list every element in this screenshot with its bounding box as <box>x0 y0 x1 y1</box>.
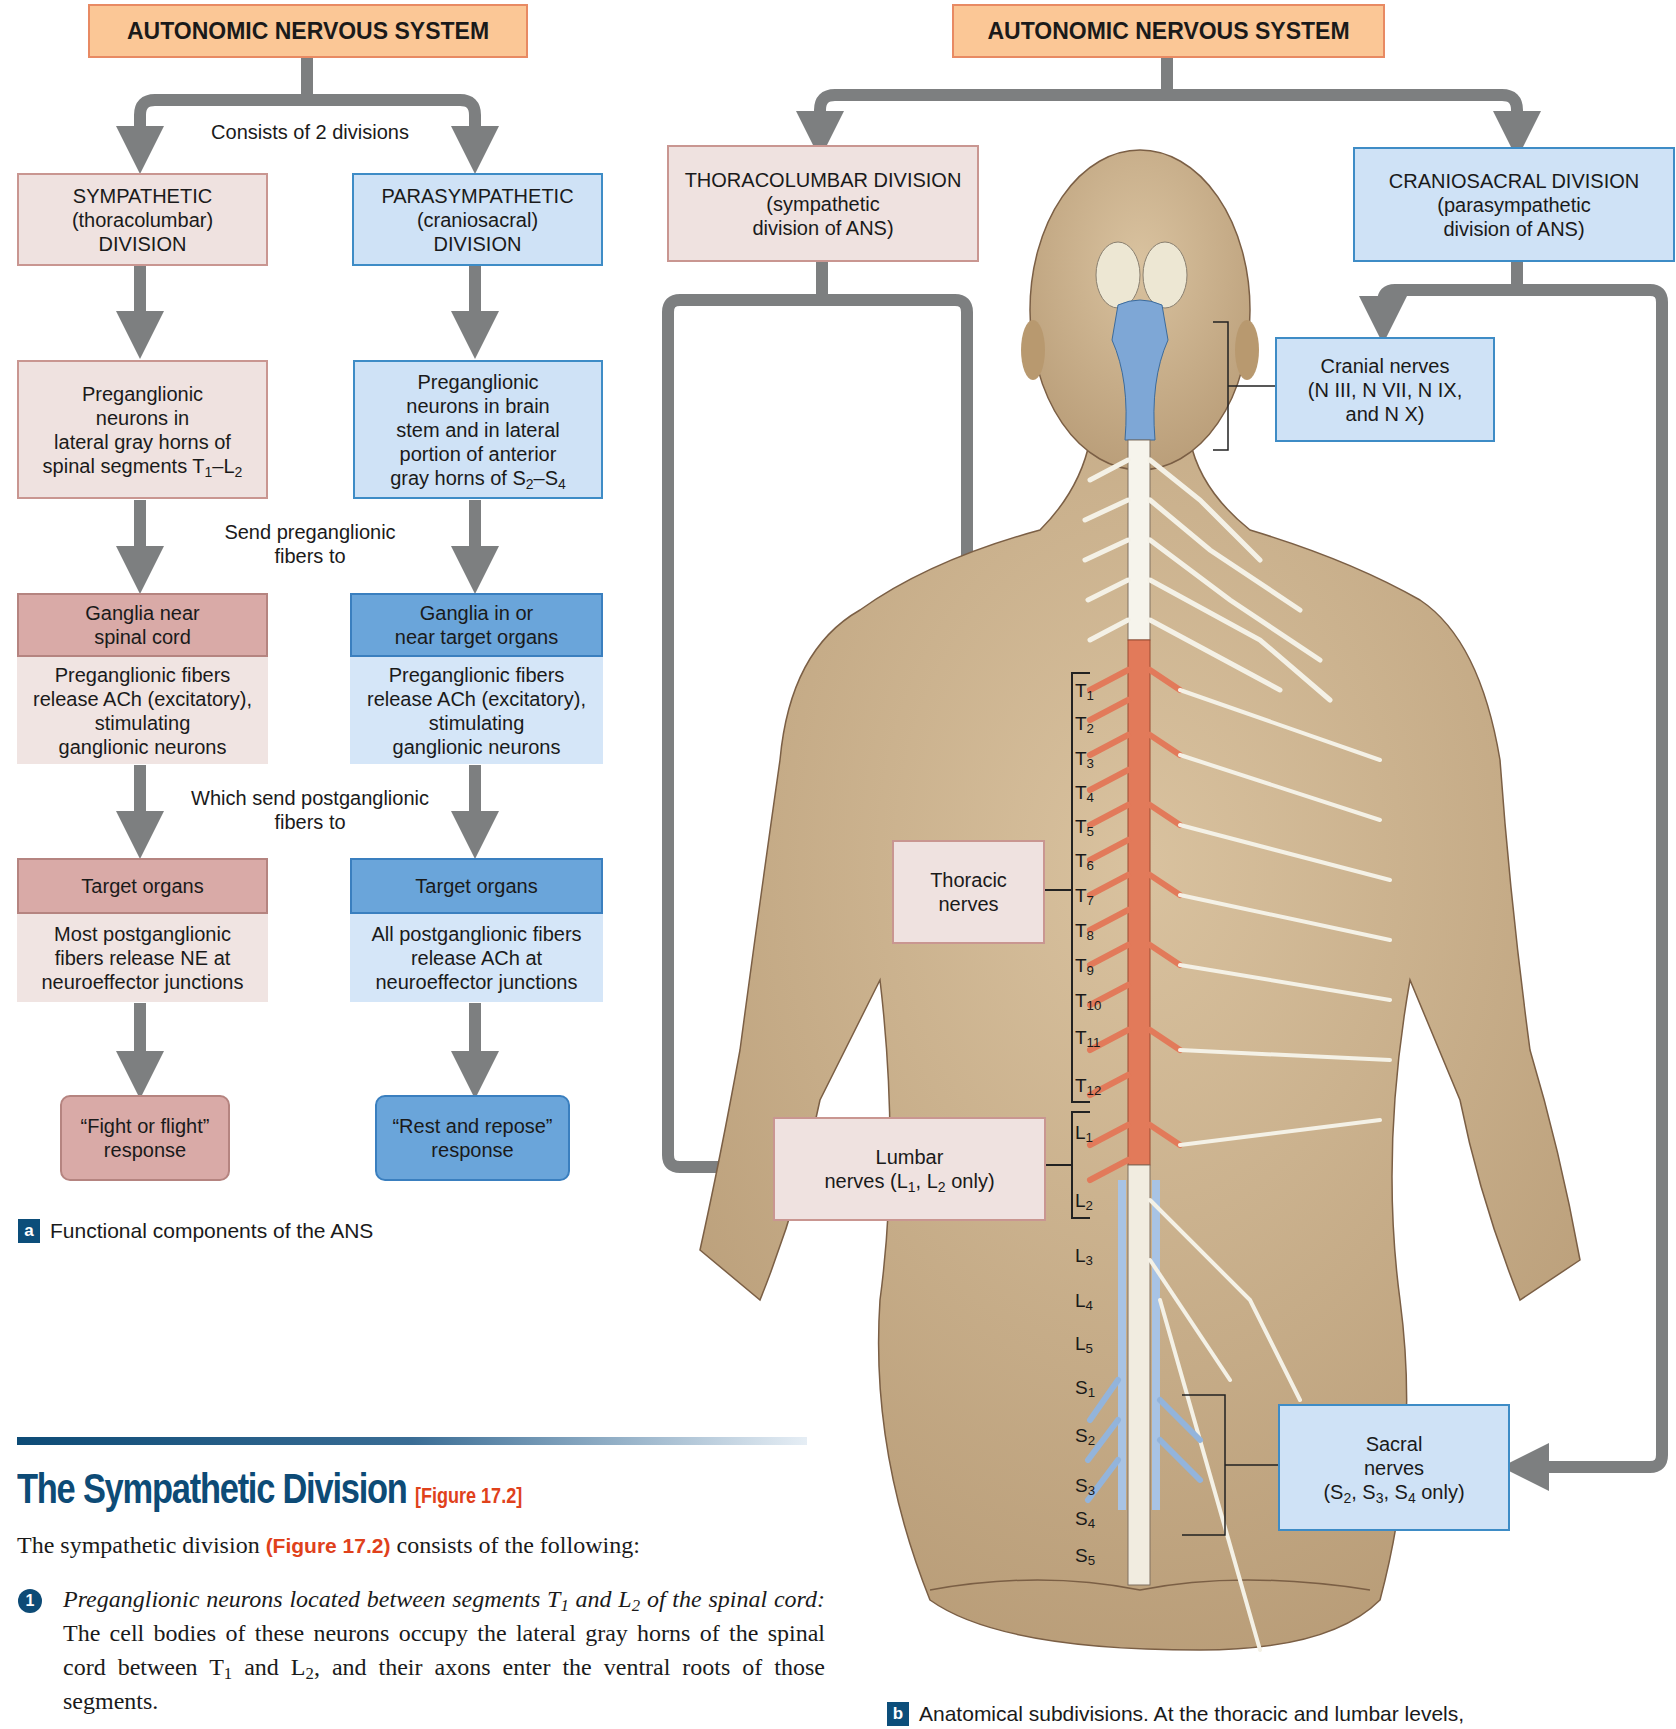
segment-label-l4: L4 <box>1075 1290 1093 1312</box>
section-intro: The sympathetic division (Figure 17.2) c… <box>17 1528 817 1563</box>
par-pre-line2: neurons in brain <box>406 394 549 418</box>
segment-label-t5: T5 <box>1075 816 1094 838</box>
section-title: The Sympathetic Division [Figure 17.2] <box>17 1465 522 1513</box>
segment-label-t8: T8 <box>1075 920 1094 942</box>
sym-division-line3: DIVISION <box>99 232 187 256</box>
caption-a: a Functional components of the ANS <box>18 1219 373 1243</box>
section-divider <box>17 1437 807 1445</box>
parasympathetic-division-box: PARASYMPATHETIC (craniosacral) DIVISION <box>352 173 603 266</box>
segment-label-l2: L2 <box>1075 1190 1093 1212</box>
lumbar-nerves-box: Lumbar nerves (L1, L2 only) <box>773 1117 1046 1221</box>
sym-pre-line4: spinal segments T1–L2 <box>43 454 243 478</box>
list-number-badge: 1 <box>18 1589 42 1613</box>
section-title-ref: [Figure 17.2] <box>415 1483 522 1508</box>
connector-consists: Consists of 2 divisions <box>180 120 440 144</box>
segment-label-s2: S2 <box>1075 1425 1095 1447</box>
sym-ganglia-title: Ganglia near spinal cord <box>17 593 268 657</box>
par-ganglia-title: Ganglia in or near target organs <box>350 593 603 657</box>
sacral-nerves-box: Sacral nerves (S2, S3, S4 only) <box>1278 1404 1510 1531</box>
sympathetic-cord <box>1128 640 1150 1165</box>
segment-label-t3: T3 <box>1075 748 1094 770</box>
par-division-line1: PARASYMPATHETIC <box>381 184 573 208</box>
sym-pre-line2: neurons in <box>96 406 189 430</box>
par-target-desc: All postganglionic fibers release ACh at… <box>350 914 603 1002</box>
cranial-nerves-box: Cranial nerves (N III, N VII, N IX, and … <box>1275 337 1495 442</box>
segment-label-t9: T9 <box>1075 955 1094 977</box>
sym-division-line1: SYMPATHETIC <box>73 184 212 208</box>
ear-left <box>1021 320 1045 380</box>
par-pre-line1: Preganglionic <box>417 370 538 394</box>
segment-label-l5: L5 <box>1075 1333 1093 1355</box>
segment-label-s3: S3 <box>1075 1475 1095 1497</box>
par-target-title: Target organs <box>350 858 603 914</box>
ear-right <box>1235 320 1259 380</box>
caption-a-text: Functional components of the ANS <box>50 1219 373 1243</box>
ans-header-a: AUTONOMIC NERVOUS SYSTEM <box>88 4 528 58</box>
caption-b-badge: b <box>887 1702 909 1726</box>
segment-label-s5: S5 <box>1075 1545 1095 1567</box>
fight-or-flight-box: “Fight or flight” response <box>60 1095 230 1181</box>
section-title-text: The Sympathetic Division <box>17 1465 407 1512</box>
segment-label-t7: T7 <box>1075 885 1094 907</box>
par-division-line2: (craniosacral) <box>417 208 538 232</box>
rest-and-repose-box: “Rest and repose” response <box>375 1095 570 1181</box>
list-item-1: Preganglionic neurons located between se… <box>63 1582 825 1718</box>
segment-label-l3: L3 <box>1075 1245 1093 1267</box>
craniosacral-division-box: CRANIOSACRAL DIVISION (parasympathetic d… <box>1353 147 1675 262</box>
segment-label-t11: T11 <box>1075 1027 1100 1049</box>
segment-label-t4: T4 <box>1075 782 1094 804</box>
figure-ref-link[interactable]: (Figure 17.2) <box>266 1534 391 1557</box>
ans-header-b: AUTONOMIC NERVOUS SYSTEM <box>952 4 1385 58</box>
segment-label-l1: L1 <box>1075 1122 1093 1144</box>
caption-b: b Anatomical subdivisions. At the thorac… <box>887 1702 1464 1726</box>
spinal-segment-labels: T1T2T3T4T5T6T7T8T9T10T11T12L1L2L3L4L5S1S… <box>1075 0 1115 1729</box>
sym-target-title: Target organs <box>17 858 268 914</box>
par-preganglionic-box: Preganglionic neurons in brain stem and … <box>353 360 603 499</box>
thoracolumbar-division-box: THORACOLUMBAR DIVISION (sympathetic divi… <box>667 145 979 262</box>
connector-send-preganglionic: Send preganglionic fibers to <box>190 520 430 568</box>
par-pre-line4: portion of anterior <box>400 442 557 466</box>
segment-label-t12: T12 <box>1075 1075 1101 1097</box>
par-pre-line3: stem and in lateral <box>396 418 559 442</box>
par-ganglia-desc: Preganglionic fibers release ACh (excita… <box>350 657 603 764</box>
segment-label-s4: S4 <box>1075 1508 1095 1530</box>
par-division-line3: DIVISION <box>434 232 522 256</box>
segment-label-t2: T2 <box>1075 713 1094 735</box>
ans-header-a-label: AUTONOMIC NERVOUS SYSTEM <box>127 19 489 43</box>
caption-a-badge: a <box>18 1219 40 1243</box>
sym-pre-line1: Preganglionic <box>82 382 203 406</box>
thoracic-nerves-box: Thoracic nerves <box>892 840 1045 944</box>
segment-label-t6: T6 <box>1075 850 1094 872</box>
caption-b-text: Anatomical subdivisions. At the thoracic… <box>919 1702 1464 1726</box>
par-pre-line5: gray horns of S2–S4 <box>390 466 566 490</box>
segment-label-t10: T10 <box>1075 990 1101 1012</box>
sympathetic-division-box: SYMPATHETIC (thoracolumbar) DIVISION <box>17 173 268 266</box>
segment-label-s1: S1 <box>1075 1377 1095 1399</box>
segment-label-t1: T1 <box>1075 680 1094 702</box>
sym-target-desc: Most postganglionic fibers release NE at… <box>17 914 268 1002</box>
connector-which-send: Which send postganglionic fibers to <box>160 786 460 834</box>
sym-division-line2: (thoracolumbar) <box>72 208 213 232</box>
sym-pre-line3: lateral gray horns of <box>54 430 231 454</box>
ans-header-b-label: AUTONOMIC NERVOUS SYSTEM <box>987 19 1349 43</box>
human-back-illustration <box>690 140 1676 1660</box>
sym-ganglia-desc: Preganglionic fibers release ACh (excita… <box>17 657 268 764</box>
sym-preganglionic-box: Preganglionic neurons in lateral gray ho… <box>17 360 268 499</box>
